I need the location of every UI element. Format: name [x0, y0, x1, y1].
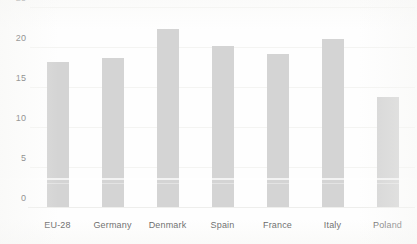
bar: [377, 97, 399, 208]
y-axis-tick-label: 0: [0, 193, 26, 203]
bar-column: [250, 54, 305, 208]
x-axis-category-label: Poland: [360, 220, 415, 230]
axis-baseline: [28, 207, 415, 208]
x-axis-category-label: France: [250, 220, 305, 230]
bar: [157, 29, 179, 208]
bar: [102, 58, 124, 208]
gridline: [30, 7, 415, 8]
bar-column: [305, 39, 360, 208]
bar: [212, 46, 234, 208]
bar-column: [195, 46, 250, 208]
bar-column: [30, 62, 85, 208]
bar-column: [85, 58, 140, 208]
x-axis-category-label: Germany: [85, 220, 140, 230]
y-axis-tick-label: 15: [0, 73, 26, 83]
bar-column: [360, 97, 415, 208]
y-axis-tick-label: 20: [0, 33, 26, 43]
y-axis-tick-label: 25: [0, 0, 26, 3]
x-axis-category-label: Italy: [305, 220, 360, 230]
plot-area: 0510152025 EU-28GermanyDenmarkSpainFranc…: [0, 0, 417, 244]
bar-column: [140, 29, 195, 208]
bar-chart: 0510152025 EU-28GermanyDenmarkSpainFranc…: [0, 0, 417, 244]
x-axis-category-label: Spain: [195, 220, 250, 230]
y-axis-tick-label: 5: [0, 153, 26, 163]
x-axis-category-label: Denmark: [140, 220, 195, 230]
x-axis-category-label: EU-28: [30, 220, 85, 230]
bar: [322, 39, 344, 208]
bar: [47, 62, 69, 208]
y-axis-tick-label: 10: [0, 113, 26, 123]
bar: [267, 54, 289, 208]
y-axis: 0510152025: [0, 0, 26, 244]
